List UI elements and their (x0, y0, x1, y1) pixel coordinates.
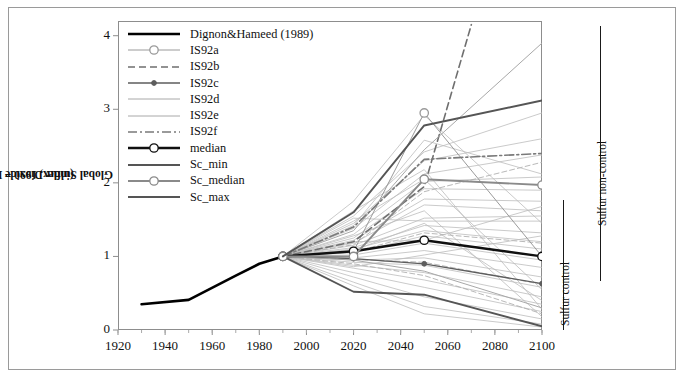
legend-item-dignon-hameed-1989-[interactable]: Dignon&Hameed (1989) (126, 26, 313, 42)
series-dignon-hameed-1989- (142, 256, 283, 304)
legend-key-icon (126, 190, 182, 204)
legend-key-icon (126, 109, 182, 123)
legend-item-is92b[interactable]: IS92b (126, 59, 313, 75)
legend-key-icon (126, 60, 182, 74)
legend-item-label: Sc_min (190, 157, 228, 172)
legend-item-is92a[interactable]: IS92a (126, 42, 313, 58)
legend-key-icon (126, 43, 182, 57)
chart-legend: Dignon&Hameed (1989)IS92aIS92bIS92cIS92d… (126, 26, 313, 205)
series-ensemble-02 (283, 113, 542, 256)
legend-item-is92e[interactable]: IS92e (126, 107, 313, 123)
legend-item-sc-median[interactable]: Sc_median (126, 173, 313, 189)
series-ensemble-21 (283, 256, 542, 324)
annotation-sulfur-non-control-label: Sulfur non-control (596, 141, 608, 226)
legend-key-icon (126, 141, 182, 155)
legend-item-label: Dignon&Hameed (1989) (190, 27, 313, 42)
annotation-sulfur-control-label: Sulfur control (559, 262, 571, 326)
legend-item-label: IS92d (190, 92, 219, 107)
chart-canvas (0, 0, 686, 380)
legend-item-label: Sc_median (190, 173, 245, 188)
figure-root: Global Sulfur Dioxide Emissions (index, … (0, 0, 686, 380)
legend-key-icon (126, 125, 182, 139)
legend-item-is92c[interactable]: IS92c (126, 75, 313, 91)
legend-item-is92f[interactable]: IS92f (126, 124, 313, 140)
legend-item-label: IS92f (190, 124, 217, 139)
legend-key-icon (126, 158, 182, 172)
legend-item-label: median (190, 141, 226, 156)
series-is92e (283, 43, 542, 256)
series-sc-median (279, 175, 547, 261)
legend-item-sc-max[interactable]: Sc_max (126, 189, 313, 205)
series-sc-min (283, 256, 542, 326)
legend-key-icon (126, 27, 182, 41)
legend-item-is92d[interactable]: IS92d (126, 91, 313, 107)
legend-item-label: IS92c (190, 76, 219, 91)
series-is92a (279, 109, 547, 261)
legend-item-label: Sc_max (190, 190, 230, 205)
legend-key-icon (126, 76, 182, 90)
legend-key-icon (126, 92, 182, 106)
legend-item-label: IS92b (190, 59, 219, 74)
legend-item-label: IS92e (190, 108, 219, 123)
legend-item-label: IS92a (190, 43, 219, 58)
legend-item-median[interactable]: median (126, 140, 313, 156)
legend-item-sc-min[interactable]: Sc_min (126, 156, 313, 172)
legend-key-icon (126, 174, 182, 188)
